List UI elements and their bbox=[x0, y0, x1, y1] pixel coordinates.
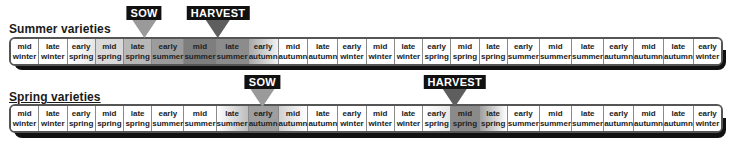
harvest-label: HARVEST bbox=[424, 75, 486, 89]
month-cell: earlyautumn bbox=[249, 39, 279, 64]
month-season: winter bbox=[41, 52, 65, 62]
month-phase: late bbox=[581, 109, 595, 119]
month-phase: late bbox=[672, 42, 686, 52]
row-title-spring: Spring varieties bbox=[9, 90, 101, 104]
month-phase: late bbox=[46, 109, 60, 119]
month-cell: midwinter bbox=[367, 106, 395, 131]
month-season: spring bbox=[453, 119, 477, 129]
month-phase: mid bbox=[548, 42, 562, 52]
month-season: spring bbox=[481, 52, 505, 62]
month-phase: early bbox=[514, 109, 533, 119]
month-phase: late bbox=[402, 109, 416, 119]
sow-marker-spring: SOW bbox=[245, 75, 280, 107]
month-phase: early bbox=[343, 42, 362, 52]
month-phase: early bbox=[158, 42, 177, 52]
month-phase: early bbox=[158, 109, 177, 119]
month-season: winter bbox=[340, 119, 364, 129]
month-phase: mid bbox=[18, 42, 32, 52]
sow-label: SOW bbox=[245, 75, 280, 89]
month-phase: mid bbox=[193, 109, 207, 119]
month-phase: late bbox=[316, 42, 330, 52]
harvest-label: HARVEST bbox=[187, 6, 249, 20]
month-season: winter bbox=[696, 119, 720, 129]
month-season: summer bbox=[184, 52, 215, 62]
month-cell: latespring bbox=[124, 39, 152, 64]
month-season: winter bbox=[13, 52, 37, 62]
month-cell: midspring bbox=[96, 106, 124, 131]
month-phase: mid bbox=[286, 109, 300, 119]
month-phase: late bbox=[225, 42, 239, 52]
month-cell: latespring bbox=[480, 39, 508, 64]
month-cell: lateautumn bbox=[308, 39, 338, 64]
month-phase: early bbox=[72, 42, 91, 52]
month-cell: midsummer bbox=[540, 39, 572, 64]
month-season: summer bbox=[572, 52, 603, 62]
month-phase: mid bbox=[102, 42, 116, 52]
month-cell: midautumn bbox=[279, 106, 309, 131]
month-phase: mid bbox=[102, 109, 116, 119]
month-cell: earlywinter bbox=[338, 39, 366, 64]
month-phase: late bbox=[672, 109, 686, 119]
sow-marker-summer: SOW bbox=[127, 6, 162, 38]
month-season: summer bbox=[152, 52, 183, 62]
month-phase: early bbox=[343, 109, 362, 119]
timeline-bar-summer: midwinterlatewinterearlyspringmidspringl… bbox=[9, 37, 723, 66]
month-phase: mid bbox=[548, 109, 562, 119]
month-cell: midsummer bbox=[184, 39, 216, 64]
month-phase: late bbox=[486, 109, 500, 119]
month-cell: latewinter bbox=[39, 39, 67, 64]
month-cell: midwinter bbox=[367, 39, 395, 64]
month-cell: earlysummer bbox=[508, 39, 540, 64]
month-season: spring bbox=[481, 119, 505, 129]
month-cell: earlywinter bbox=[694, 106, 721, 131]
month-cell: midwinter bbox=[11, 106, 39, 131]
month-cell: earlysummer bbox=[508, 106, 540, 131]
sow-arrow-icon bbox=[132, 20, 156, 38]
month-season: autumn bbox=[604, 119, 633, 129]
month-season: autumn bbox=[249, 119, 278, 129]
month-cell: midautumn bbox=[634, 106, 664, 131]
month-cell: earlyspring bbox=[68, 106, 96, 131]
month-phase: early bbox=[254, 42, 273, 52]
month-phase: late bbox=[316, 109, 330, 119]
month-cell: midsummer bbox=[184, 106, 216, 131]
month-cell: latewinter bbox=[39, 106, 67, 131]
month-season: autumn bbox=[634, 52, 663, 62]
month-phase: mid bbox=[458, 42, 472, 52]
month-phase: late bbox=[581, 42, 595, 52]
month-cell: earlywinter bbox=[694, 39, 721, 64]
month-phase: mid bbox=[641, 109, 655, 119]
month-season: spring bbox=[97, 119, 121, 129]
month-cell: latewinter bbox=[395, 106, 423, 131]
month-cell: midspring bbox=[451, 39, 479, 64]
month-season: summer bbox=[217, 119, 248, 129]
month-cell: midsummer bbox=[540, 106, 572, 131]
month-season: spring bbox=[125, 52, 149, 62]
month-phase: mid bbox=[286, 42, 300, 52]
month-cell: midautumn bbox=[634, 39, 664, 64]
month-phase: late bbox=[402, 42, 416, 52]
month-season: autumn bbox=[308, 119, 337, 129]
sow-label: SOW bbox=[127, 6, 162, 20]
month-phase: early bbox=[427, 109, 446, 119]
month-season: spring bbox=[69, 119, 93, 129]
month-season: winter bbox=[368, 119, 392, 129]
month-season: winter bbox=[340, 52, 364, 62]
month-season: autumn bbox=[604, 52, 633, 62]
month-cell: lateautumn bbox=[664, 106, 694, 131]
month-phase: late bbox=[131, 42, 145, 52]
month-phase: late bbox=[486, 42, 500, 52]
month-season: summer bbox=[184, 119, 215, 129]
harvest-marker-spring: HARVEST bbox=[424, 75, 486, 107]
month-phase: mid bbox=[373, 42, 387, 52]
month-season: summer bbox=[217, 52, 248, 62]
month-cell: latespring bbox=[124, 106, 152, 131]
month-cell: earlysummer bbox=[152, 106, 184, 131]
row-title-summer: Summer varieties bbox=[9, 22, 111, 36]
month-season: winter bbox=[13, 119, 37, 129]
month-phase: early bbox=[609, 109, 628, 119]
month-season: autumn bbox=[249, 52, 278, 62]
harvest-arrow-icon bbox=[443, 89, 467, 107]
month-phase: early bbox=[427, 42, 446, 52]
month-season: autumn bbox=[279, 52, 308, 62]
